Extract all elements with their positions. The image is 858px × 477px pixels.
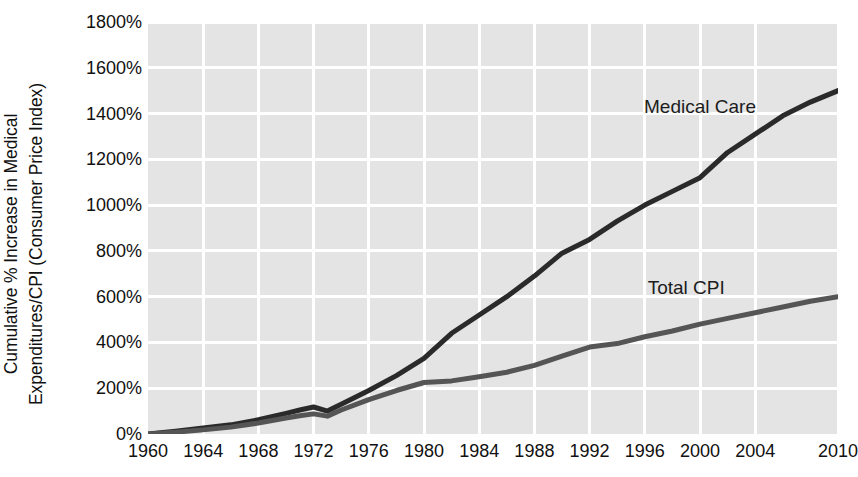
y-axis-tick-labels: 0%200%400%600%800%1000%1200%1400%1600%18… [44,0,142,477]
y-tick-label: 800% [46,242,142,260]
x-tick-label: 2000 [680,440,720,462]
x-tick-label: 2010 [818,440,858,462]
x-tick-label: 2004 [735,440,775,462]
x-tick-label: 1988 [514,440,554,462]
plot-area [148,22,838,434]
x-tick-label: 1972 [294,440,334,462]
x-tick-label: 1980 [404,440,444,462]
x-tick-label: 1984 [459,440,499,462]
y-tick-label: 1000% [46,196,142,214]
y-tick-label: 1200% [46,150,142,168]
series-label-total-cpi: Total CPI [648,277,725,299]
x-axis-tick-labels: 1960196419681972197619801984198819921996… [0,440,855,470]
x-tick-label: 1964 [183,440,223,462]
series-line-total-cpi [148,297,838,434]
x-tick-label: 1968 [238,440,278,462]
series-label-medical-care: Medical Care [644,96,756,118]
y-tick-label: 600% [46,288,142,306]
y-tick-label: 1400% [46,105,142,123]
y-axis-title-line-1: Cumulative % Increase in Medical [0,114,24,374]
series-lines [148,22,838,434]
x-tick-label: 1996 [625,440,665,462]
y-tick-label: 1800% [46,13,142,31]
x-tick-label: 1960 [128,440,168,462]
y-tick-label: 400% [46,333,142,351]
x-tick-label: 1992 [570,440,610,462]
y-tick-label: 200% [46,379,142,397]
x-tick-label: 1976 [349,440,389,462]
series-line-medical-care [148,91,838,434]
y-tick-label: 1600% [46,59,142,77]
